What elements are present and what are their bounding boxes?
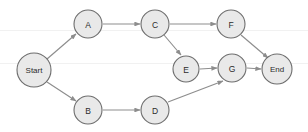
graph-node-label-d: D xyxy=(152,106,158,116)
graph-edge-g-to-end xyxy=(247,68,261,69)
graph-node-g[interactable]: G xyxy=(218,54,246,82)
graph-node-label-e: E xyxy=(183,65,189,75)
graph-edge-f-to-end xyxy=(241,35,268,58)
graph-node-label-c: C xyxy=(152,20,158,30)
graph-node-label-b: B xyxy=(85,106,91,116)
graph-node-c[interactable]: C xyxy=(141,10,169,38)
graph-edge-e-to-g xyxy=(200,68,217,69)
graph-node-b[interactable]: B xyxy=(74,96,102,124)
diagram-canvas: StartACFEGEndBD xyxy=(0,0,308,132)
graph-edge-c-to-e xyxy=(164,35,181,55)
graph-node-label-start: Start xyxy=(26,66,44,75)
graph-node-label-a: A xyxy=(85,20,91,30)
graph-node-label-f: F xyxy=(228,20,233,30)
graph-svg: StartACFEGEndBD xyxy=(0,0,308,132)
node-layer: StartACFEGEndBD xyxy=(17,10,292,124)
graph-node-label-end: End xyxy=(270,65,284,74)
graph-node-end[interactable]: End xyxy=(262,54,292,84)
graph-node-a[interactable]: A xyxy=(74,10,102,38)
graph-node-f[interactable]: F xyxy=(217,10,245,38)
graph-node-start[interactable]: Start xyxy=(17,53,51,87)
graph-edge-d-to-g xyxy=(168,81,223,102)
graph-edge-start-to-b xyxy=(47,82,76,101)
graph-edge-start-to-a xyxy=(47,34,76,59)
graph-node-e[interactable]: E xyxy=(173,56,199,82)
graph-node-label-g: G xyxy=(229,64,236,74)
graph-node-d[interactable]: D xyxy=(141,96,169,124)
